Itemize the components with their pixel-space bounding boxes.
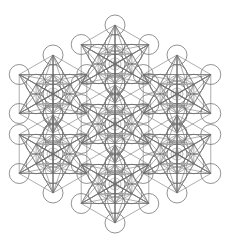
metatron-cube-bottom bbox=[71, 135, 159, 233]
connecting-lines-bottom bbox=[81, 145, 149, 223]
metatron-cube-lower-left bbox=[9, 105, 97, 203]
connecting-lines-lower-right bbox=[143, 115, 211, 193]
metatron-rosette-diagram: Metatron's Cube rosette bbox=[0, 0, 228, 249]
sacred-geometry-figure bbox=[0, 0, 228, 249]
connecting-lines-lower-left bbox=[19, 115, 87, 193]
metatron-cube-lower-right bbox=[133, 105, 221, 203]
